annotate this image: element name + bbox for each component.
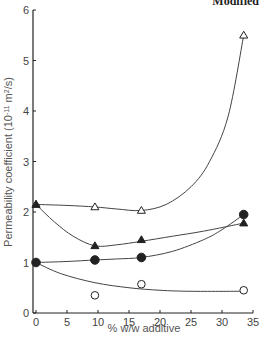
y-tick-label: 3	[23, 156, 29, 168]
y-axis-title: Permeability coefficient (10-11 m2/s)	[2, 77, 14, 247]
open-circle-point	[138, 280, 146, 288]
y-tick-label: 6	[23, 4, 29, 16]
y-tick-label: 0	[23, 307, 29, 319]
filled-circle-point	[91, 256, 100, 265]
x-tick-label: 25	[185, 316, 197, 328]
open-triangle-curve	[36, 35, 244, 210]
filled-circle-point	[137, 253, 146, 262]
filled-triangle-point	[137, 236, 145, 243]
x-tick-label: 35	[247, 316, 259, 328]
x-tick-label: 30	[216, 316, 228, 328]
filled-triangle-point	[240, 219, 248, 226]
y-tick-label: 1	[23, 257, 29, 269]
filled-circle-point	[32, 258, 41, 267]
y-tick-label: 4	[23, 105, 29, 117]
open-triangle-point	[240, 31, 248, 38]
x-tick-label: 10	[92, 316, 104, 328]
data-markers	[32, 31, 248, 299]
x-tick-label: 5	[64, 316, 70, 328]
open-circle-point	[240, 286, 248, 294]
filled-circle-point	[239, 210, 248, 219]
axes: 051015202530350123456	[23, 4, 259, 328]
x-tick-label: 0	[33, 316, 39, 328]
y-tick-label: 2	[23, 206, 29, 218]
chart: 051015202530350123456 % w/w additive Per…	[0, 0, 259, 338]
y-tick-label: 5	[23, 55, 29, 67]
x-axis-title: % w/w additive	[108, 322, 181, 334]
open-circle-point	[91, 292, 99, 300]
